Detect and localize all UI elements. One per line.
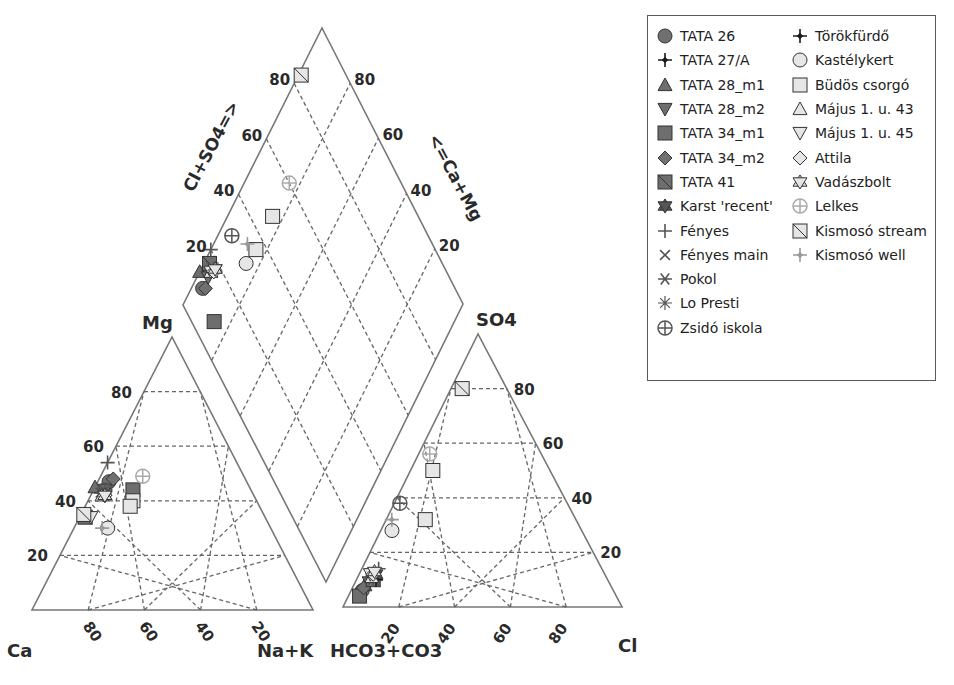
anion-right-label: Cl [618,635,637,656]
anion-right-tick: 80 [514,381,535,399]
legend-marker [793,102,807,115]
triangle-up-marker-icon [791,100,809,118]
legend: TATA 26TATA 27/ATATA 28_m1TATA 28_m2TATA… [647,15,936,381]
legend-label: Törökfürdő [815,28,889,44]
legend-item: Kismosó stream [791,218,927,242]
legend-label: Büdös csorgó [815,77,909,93]
legend-item: Törökfürdő [791,24,927,48]
gridline [240,138,378,415]
gridline [510,443,535,607]
legend-marker [793,175,807,189]
legend-marker [658,103,672,116]
legend-item: Zsidó iskola [656,316,773,340]
point-b-d-s-csorg--cation [123,499,137,513]
legend-label: Pokol [680,271,717,287]
legend-item: Május 1. u. 43 [791,97,927,121]
legend-item: TATA 34_m2 [656,145,773,169]
legend-marker [658,224,672,238]
legend-item: Vadászbolt [791,170,927,194]
x-marker-icon [656,246,674,264]
gridline [266,139,408,415]
legend-label: Kastélykert [815,52,894,68]
legend-item: TATA 28_m1 [656,73,773,97]
legend-marker [658,29,672,43]
legend-label: TATA 41 [680,174,735,190]
legend-item: Fényes main [656,243,773,267]
legend-marker [658,78,672,91]
cation-left-tick: 60 [83,438,104,456]
legend-label: Lo Presti [680,295,740,311]
legend-item: TATA 28_m2 [656,97,773,121]
point-lelkes-cation [136,469,150,483]
diamond-left-tick: 80 [269,71,290,89]
legend-marker [658,296,672,310]
plus-marker-icon [656,222,674,240]
diamond-right-tick: 60 [382,126,403,144]
cation-bottom-tick: 40 [191,618,218,645]
plus-diamond-marker-icon [791,27,809,45]
cation-right-label: Na+K [257,640,314,661]
point-kismos-stream-diamond [294,68,308,82]
point-lelkes-anion [423,447,437,461]
asterisk-marker-icon [656,270,674,288]
square-slash-marker-icon [656,173,674,191]
legend-marker [793,199,807,213]
legend-marker [658,274,672,285]
legend-label: Május 1. u. 45 [815,125,914,141]
anion-apex-label: SO4 [476,309,517,330]
legend-item: Fényes [656,218,773,242]
legend-label: TATA 26 [680,28,735,44]
point-zsid-iskola-diamond [225,229,239,243]
anion-bottom-tick: 80 [545,620,572,647]
cation-left-tick: 40 [55,493,76,511]
plus-diamond-marker-icon [656,51,674,69]
legend-item: Karst 'recent' [656,194,773,218]
legend-item: Pokol [656,267,773,291]
gridline [370,552,566,607]
legend-item: Büdös csorgó [791,73,927,97]
gridlines [60,83,593,610]
legend-item: Lelkes [791,194,927,218]
diamond-marker-icon [656,149,674,167]
legend-marker [793,248,807,262]
diamond-right-axis-label: <=Ca+Mg [424,130,487,224]
gridline [60,555,257,610]
point-tata-34-m1-diamond [207,315,221,329]
cation-apex-label: Mg [142,312,173,333]
legend-item: Kismosó well [791,243,927,267]
point-b-d-s-csorg--anion [418,513,432,527]
legend-label: Május 1. u. 43 [815,101,914,117]
legend-marker [658,151,672,165]
legend-marker [658,175,672,189]
legend-item: TATA 34_m1 [656,121,773,145]
legend-label: TATA 28_m2 [680,101,765,117]
gridline [211,250,354,527]
legend-marker [658,321,672,335]
gridline [297,249,434,527]
cation-bottom-tick: 80 [79,618,106,645]
legend-label: TATA 27/A [680,52,750,68]
point-kismos-well-anion [385,513,399,527]
legend-label: Zsidó iskola [680,320,763,336]
diamond-left-axis-label: Cl+SO4=> [179,98,243,195]
legend-column-2: TörökfürdőKastélykertBüdös csorgóMájus 1… [791,24,927,267]
anion-right-tick: 60 [543,435,564,453]
legend-label: Lelkes [815,198,859,214]
legend-label: Fényes [680,223,729,239]
point-kismos-stream-cation [77,507,91,521]
legend-label: Attila [815,150,852,166]
legend-marker [660,250,670,260]
circle-marker-icon [656,27,674,45]
legend-item: Kastélykert [791,48,927,72]
point-kast-lykert-diamond [239,256,253,270]
legend-label: Kismosó well [815,247,906,263]
cation-left-tick: 20 [27,547,48,565]
diamond-right-tick: 80 [354,71,375,89]
data-points [77,68,469,603]
legend-column-1: TATA 26TATA 27/ATATA 28_m1TATA 28_m2TATA… [656,24,773,340]
cation-bottom-tick: 60 [135,618,162,645]
diamond-marker-icon [791,149,809,167]
diamond-right-tick: 20 [439,237,460,255]
legend-label: TATA 34_m1 [680,125,765,141]
cation-left-tick: 80 [111,384,132,402]
